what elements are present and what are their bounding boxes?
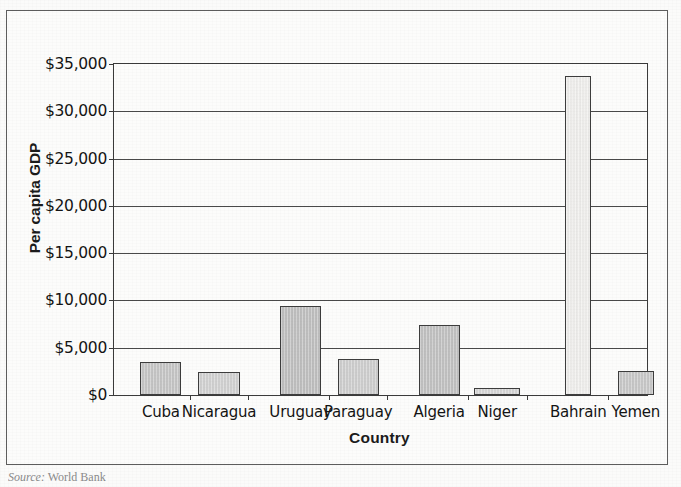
y-axis-title: Per capita GDP (26, 108, 44, 288)
bar-nicaragua (198, 372, 239, 395)
x-axis-tick-label: Bahrain (550, 403, 607, 421)
y-axis-tick-label: $0 (88, 386, 107, 404)
x-axis-tick-label: Paraguay (324, 403, 392, 421)
x-axis-tick-label: Uruguay (269, 403, 331, 421)
x-axis-tick-mark (608, 395, 609, 400)
x-axis-tick-mark (468, 395, 469, 400)
bar-algeria (419, 325, 460, 395)
source-value: World Bank (48, 470, 106, 484)
x-axis-tick-mark (527, 395, 528, 400)
y-axis-tick-label: $35,000 (45, 55, 107, 73)
bar-cuba (140, 362, 181, 395)
y-axis-tick-label: $10,000 (45, 291, 107, 309)
x-axis-tick-mark (190, 395, 191, 400)
y-axis-tick-label: $30,000 (45, 102, 107, 120)
y-axis-tick-label: $20,000 (45, 197, 107, 215)
source-label: Source: (8, 470, 45, 484)
figure-frame: Per capita GDP $0$5,000$10,000$15,000$20… (6, 10, 668, 465)
bar-yemen (618, 371, 654, 395)
y-axis-tick-label: $15,000 (45, 244, 107, 262)
source-caption: Source: World Bank (8, 470, 106, 487)
y-axis-tick-label: $5,000 (55, 339, 107, 357)
x-axis-tick-mark (329, 395, 330, 400)
y-axis-tick-mark (109, 395, 114, 396)
bar-bahrain (565, 76, 591, 395)
x-axis-tick-label: Algeria (413, 403, 464, 421)
bar-niger (474, 388, 520, 395)
bar-uruguay (280, 306, 321, 395)
plot-area: $0$5,000$10,000$15,000$20,000$25,000$30,… (113, 63, 648, 396)
x-axis-title: Country (113, 429, 646, 447)
y-axis-tick-label: $25,000 (45, 150, 107, 168)
figure-page: Per capita GDP $0$5,000$10,000$15,000$20… (0, 0, 681, 487)
bar-paraguay (338, 359, 379, 395)
x-axis-tick-label: Niger (478, 403, 517, 421)
x-axis-tick-label: Yemen (611, 403, 660, 421)
x-axis-tick-mark (248, 395, 249, 400)
y-axis-tick-mark (109, 64, 114, 65)
x-axis-tick-label: Cuba (142, 403, 180, 421)
x-axis-tick-label: Nicaragua (182, 403, 257, 421)
x-axis-tick-mark (387, 395, 388, 400)
